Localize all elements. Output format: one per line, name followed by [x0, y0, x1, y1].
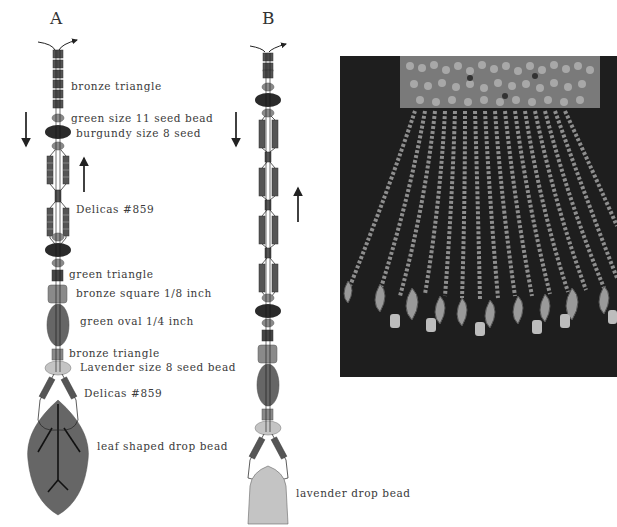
label-lavender-drop-bead: lavender drop bead [296, 487, 411, 499]
label-green-oval: green oval 1/4 inch [80, 315, 194, 327]
label-lavender-size8-seed: Lavender size 8 seed bead [80, 361, 236, 373]
label-burgundy-size8-seed: burgundy size 8 seed [76, 127, 201, 139]
label-delicas-859-2: Delicas #859 [84, 387, 162, 399]
diagram-b [236, 44, 298, 524]
photo-render [340, 56, 617, 377]
label-leaf-drop-bead: leaf shaped drop bead [97, 440, 228, 452]
label-bronze-square: bronze square 1/8 inch [76, 287, 212, 299]
label-green-triangle: green triangle [69, 268, 154, 280]
label-delicas-859: Delicas #859 [76, 203, 154, 215]
label-green-size11-seed: green size 11 seed bead [71, 112, 213, 124]
beaded-fringe-photo [340, 56, 617, 377]
label-bronze-triangle-2: bronze triangle [69, 347, 160, 359]
label-bronze-triangle: bronze triangle [71, 80, 162, 92]
